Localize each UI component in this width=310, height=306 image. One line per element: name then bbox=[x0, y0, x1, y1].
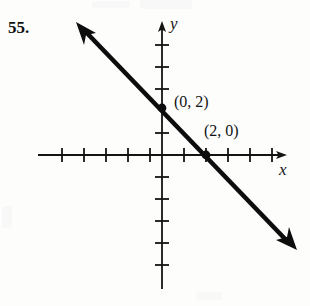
point-label-y-intercept: (0, 2) bbox=[174, 93, 209, 111]
coordinate-plane bbox=[0, 0, 310, 306]
point-marker-x-intercept bbox=[202, 151, 211, 160]
point-label-x-intercept: (2, 0) bbox=[204, 122, 239, 140]
plotted-line bbox=[84, 30, 288, 242]
plotted-line-group bbox=[76, 22, 297, 250]
y-axis-label: y bbox=[170, 14, 178, 34]
graph-figure: 55. bbox=[0, 0, 310, 306]
point-marker-y-intercept bbox=[158, 104, 167, 113]
x-axis-label: x bbox=[279, 160, 287, 180]
